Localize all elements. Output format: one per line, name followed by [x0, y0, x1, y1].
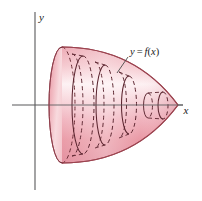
curve-equation-label: y=f(x) [129, 46, 160, 58]
y-axis-label: y [38, 11, 44, 23]
curve-label-paren-close: ) [156, 46, 160, 58]
figure-container: y x y=f(x) [0, 0, 202, 201]
curve-label-equals: = [137, 46, 143, 57]
solid-of-revolution-figure: y x y=f(x) [0, 0, 202, 201]
x-axis-label: x [183, 104, 189, 116]
curve-label-y: y [129, 46, 135, 57]
